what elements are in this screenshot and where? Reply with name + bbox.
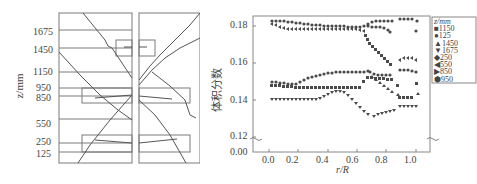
series-550-right [398, 56, 417, 62]
hexagon-marker-icon: ⬢ [434, 75, 441, 84]
series-1450-drop [370, 75, 420, 96]
column-schematic [0, 0, 200, 184]
legend: z/mm ■1150 ●125 ▲1450 ▼1675 ◆250 ◀550 ▶8… [434, 18, 476, 83]
series-1150-right [398, 96, 413, 99]
series-1675 [270, 90, 418, 118]
volume-fraction-chart: 体积分数 0.18 0.16 0.14 0.12 0.00 0.0 0.2 0.… [200, 0, 477, 184]
left-diagram: z/mm 1675 1450 1150 950 850 550 250 125 [0, 0, 200, 184]
legend-item-950: ⬢950 [434, 76, 476, 83]
series-850-950-1150-1450 [270, 69, 393, 89]
series-125-250-550 [270, 17, 419, 33]
series-850-950-right [398, 68, 417, 73]
